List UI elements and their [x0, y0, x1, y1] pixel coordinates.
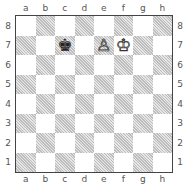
rank-labels-right: 87654321: [175, 16, 185, 172]
square-h8[interactable]: [153, 16, 173, 36]
square-f5[interactable]: [114, 75, 134, 95]
square-a2[interactable]: [16, 133, 36, 153]
rank-label-1: 1: [175, 153, 185, 173]
square-e4[interactable]: [94, 94, 114, 114]
rank-label-8: 8: [175, 16, 185, 36]
square-a7[interactable]: [16, 36, 36, 56]
white-king-icon[interactable]: ♔: [116, 37, 131, 54]
rank-label-3: 3: [3, 114, 13, 134]
square-f8[interactable]: [114, 16, 134, 36]
square-g1[interactable]: [133, 153, 153, 173]
rank-label-7: 7: [175, 36, 185, 56]
rank-label-3: 3: [175, 114, 185, 134]
rank-label-5: 5: [175, 75, 185, 95]
white-pawn-icon[interactable]: ♙: [96, 37, 111, 54]
square-e3[interactable]: [94, 114, 114, 134]
file-label-d: d: [75, 174, 95, 184]
square-f6[interactable]: [114, 55, 134, 75]
square-b1[interactable]: [36, 153, 56, 173]
file-label-a: a: [16, 174, 36, 184]
rank-label-1: 1: [3, 153, 13, 173]
square-b2[interactable]: [36, 133, 56, 153]
square-h1[interactable]: [153, 153, 173, 173]
file-label-d: d: [75, 3, 95, 13]
square-f1[interactable]: [114, 153, 134, 173]
square-e8[interactable]: [94, 16, 114, 36]
square-h6[interactable]: [153, 55, 173, 75]
rank-label-8: 8: [3, 16, 13, 36]
square-f7[interactable]: ♔: [114, 36, 134, 56]
square-g4[interactable]: [133, 94, 153, 114]
square-h2[interactable]: [153, 133, 173, 153]
square-c7[interactable]: ♚: [55, 36, 75, 56]
square-h7[interactable]: [153, 36, 173, 56]
square-d5[interactable]: [75, 75, 95, 95]
square-e5[interactable]: [94, 75, 114, 95]
square-c2[interactable]: [55, 133, 75, 153]
square-a4[interactable]: [16, 94, 36, 114]
rank-label-2: 2: [3, 133, 13, 153]
square-b8[interactable]: [36, 16, 56, 36]
square-d1[interactable]: [75, 153, 95, 173]
square-d8[interactable]: [75, 16, 95, 36]
square-d7[interactable]: [75, 36, 95, 56]
square-c5[interactable]: [55, 75, 75, 95]
square-f2[interactable]: [114, 133, 134, 153]
rank-label-2: 2: [175, 133, 185, 153]
square-a1[interactable]: [16, 153, 36, 173]
square-c4[interactable]: [55, 94, 75, 114]
rank-label-4: 4: [175, 94, 185, 114]
square-c1[interactable]: [55, 153, 75, 173]
square-g8[interactable]: [133, 16, 153, 36]
square-d3[interactable]: [75, 114, 95, 134]
square-c3[interactable]: [55, 114, 75, 134]
square-h3[interactable]: [153, 114, 173, 134]
square-e1[interactable]: [94, 153, 114, 173]
rank-label-4: 4: [3, 94, 13, 114]
square-b3[interactable]: [36, 114, 56, 134]
square-b5[interactable]: [36, 75, 56, 95]
square-b6[interactable]: [36, 55, 56, 75]
chess-board[interactable]: ♚♙♔: [15, 15, 173, 173]
file-label-g: g: [133, 174, 153, 184]
square-h4[interactable]: [153, 94, 173, 114]
square-g5[interactable]: [133, 75, 153, 95]
square-c6[interactable]: [55, 55, 75, 75]
square-e7[interactable]: ♙: [94, 36, 114, 56]
file-label-h: h: [153, 3, 173, 13]
rank-label-6: 6: [3, 55, 13, 75]
square-g6[interactable]: [133, 55, 153, 75]
file-label-b: b: [36, 174, 56, 184]
square-e6[interactable]: [94, 55, 114, 75]
square-b7[interactable]: [36, 36, 56, 56]
square-a6[interactable]: [16, 55, 36, 75]
square-a8[interactable]: [16, 16, 36, 36]
square-h5[interactable]: [153, 75, 173, 95]
black-king-icon[interactable]: ♚: [57, 37, 72, 54]
square-g2[interactable]: [133, 133, 153, 153]
square-d2[interactable]: [75, 133, 95, 153]
rank-labels-left: 87654321: [3, 16, 13, 172]
file-label-g: g: [133, 3, 153, 13]
square-g3[interactable]: [133, 114, 153, 134]
file-label-c: c: [55, 3, 75, 13]
square-f4[interactable]: [114, 94, 134, 114]
square-g7[interactable]: [133, 36, 153, 56]
file-labels-bottom: abcdefgh: [16, 174, 172, 184]
file-label-e: e: [94, 3, 114, 13]
square-f3[interactable]: [114, 114, 134, 134]
rank-label-7: 7: [3, 36, 13, 56]
rank-label-5: 5: [3, 75, 13, 95]
square-a5[interactable]: [16, 75, 36, 95]
file-label-a: a: [16, 3, 36, 13]
square-d6[interactable]: [75, 55, 95, 75]
square-b4[interactable]: [36, 94, 56, 114]
file-label-b: b: [36, 3, 56, 13]
file-labels-top: abcdefgh: [16, 3, 172, 13]
square-e2[interactable]: [94, 133, 114, 153]
square-c8[interactable]: [55, 16, 75, 36]
file-label-c: c: [55, 174, 75, 184]
square-d4[interactable]: [75, 94, 95, 114]
file-label-h: h: [153, 174, 173, 184]
square-a3[interactable]: [16, 114, 36, 134]
